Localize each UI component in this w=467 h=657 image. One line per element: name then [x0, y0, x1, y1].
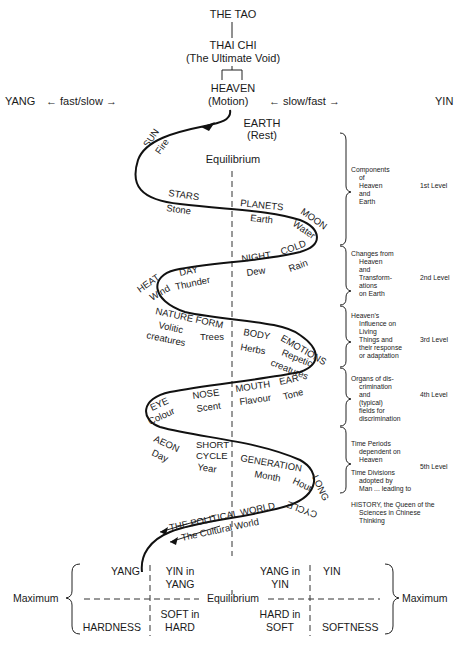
dew-label: Dew	[246, 264, 266, 278]
level-5-brace	[340, 427, 351, 493]
rain-label: Rain	[287, 257, 309, 274]
yin-cell: YIN	[323, 565, 341, 577]
yang-cell: YANG	[111, 565, 140, 577]
soft-in-hard-cell-1: SOFT in	[161, 608, 200, 620]
level-1-description: Components of Heaven and Earth 1st Level	[351, 166, 448, 205]
svg-text:Sciences in Chinese: Sciences in Chinese	[359, 509, 421, 516]
yang-in-yin-cell-1: YANG in	[260, 565, 300, 577]
stone-label: Stone	[166, 202, 192, 216]
svg-text:ations: ations	[359, 282, 378, 289]
tao-label: THE TAO	[210, 8, 257, 20]
svg-text:and: and	[359, 266, 371, 273]
svg-text:fields for: fields for	[359, 407, 385, 414]
cultural-arrow-head	[170, 537, 178, 545]
level-2-label: 2nd Level	[420, 274, 450, 281]
body-label: BODY	[243, 326, 272, 342]
yang-label: YANG	[5, 95, 35, 107]
svg-text:Time Divisions: Time Divisions	[351, 469, 396, 476]
night-label: NIGHT	[241, 249, 272, 264]
equilibrium-label: Equilibrium	[206, 153, 260, 165]
right-maximum-label: Maximum	[402, 592, 448, 604]
level-3-label: 3rd Level	[420, 336, 448, 343]
level-2-brace	[340, 246, 351, 305]
svg-text:Time Periods: Time Periods	[351, 440, 391, 447]
svg-text:of: of	[359, 174, 365, 181]
svg-text:Heaven: Heaven	[359, 182, 383, 189]
fast-slow-label: ← fast/slow →	[46, 95, 117, 107]
arrow-head-top	[201, 122, 215, 131]
svg-text:Transform-: Transform-	[359, 274, 392, 281]
cycle-long-label: CYCLE	[285, 499, 319, 520]
svg-text:Heaven's: Heaven's	[351, 312, 380, 319]
svg-text:Thinking: Thinking	[359, 517, 385, 525]
scent-label: Scent	[196, 400, 222, 414]
level-2-description: Changes from Heaven and Transform- ation…	[351, 250, 450, 297]
motion-line: YANG ← fast/slow → (Motion) ← slow/fast …	[5, 95, 453, 107]
svg-text:Heaven: Heaven	[359, 456, 383, 463]
yin-in-yang-cell-2: YANG	[166, 578, 195, 590]
earth-label: EARTH	[243, 117, 280, 129]
flavour-label: Flavour	[239, 392, 272, 407]
left-maximum-brace	[66, 564, 80, 634]
left-maximum-label: Maximum	[13, 592, 59, 604]
level-3-brace	[340, 306, 351, 367]
level-4-label: 4th Level	[420, 391, 448, 398]
right-maximum-brace	[385, 564, 399, 634]
soft-in-hard-cell-2: HARD	[165, 621, 195, 633]
thai-chi-sub-label: (The Ultimate Void)	[186, 52, 280, 64]
svg-text:Organs of dis-: Organs of dis-	[351, 375, 394, 383]
svg-text:and: and	[359, 391, 371, 398]
yang-in-yin-cell-2: YIN	[271, 578, 289, 590]
svg-text:and: and	[359, 190, 371, 197]
hard-in-soft-cell-2: SOFT	[266, 621, 295, 633]
hard-in-soft-cell-1: HARD in	[260, 608, 301, 620]
grid-equilibrium-label: Equilibrium	[207, 592, 259, 604]
level-5-description: Time Periods dependent on Heaven Time Di…	[351, 440, 448, 493]
earth-sub-label: (Rest)	[247, 129, 277, 141]
nose-label: NOSE	[192, 386, 220, 401]
svg-text:Man ... leading to: Man ... leading to	[359, 485, 411, 493]
softness-cell: SOFTNESS	[322, 621, 379, 633]
level-1-label: 1st Level	[420, 182, 448, 189]
earth-element-label: Earth	[250, 212, 274, 225]
year-label: Year	[197, 461, 218, 475]
svg-text:Components: Components	[351, 166, 390, 174]
yin-label: YIN	[435, 95, 453, 107]
level-5-label: 5th Level	[420, 463, 448, 470]
trees-label: Trees	[200, 331, 224, 342]
svg-text:(typical): (typical)	[359, 399, 383, 407]
tao-cosmology-diagram: THE TAO THAI CHI (The Ultimate Void) HEA…	[0, 0, 467, 657]
cycle-label: CYCLE	[196, 450, 228, 461]
svg-text:their response: their response	[359, 344, 402, 352]
level-4-description: Organs of dis- crimination and (typical)…	[351, 375, 448, 422]
month-label: Month	[254, 468, 282, 483]
motion-label: (Motion)	[208, 95, 248, 107]
svg-text:on Earth: on Earth	[359, 290, 385, 297]
tone-label: Tone	[282, 386, 305, 402]
level-3-description: Heaven's Influence on Living Things and …	[351, 312, 448, 360]
yin-in-yang-cell-1: YIN in	[166, 565, 195, 577]
yin-yang-grid: Maximum Maximum Equilibrium YANG YIN in …	[13, 564, 448, 636]
svg-text:adopted by: adopted by	[359, 477, 393, 485]
level-4-brace	[340, 368, 351, 426]
svg-text:discrimination: discrimination	[359, 415, 401, 422]
svg-text:Heaven: Heaven	[359, 258, 383, 265]
hardness-cell: HARDNESS	[83, 621, 141, 633]
svg-text:Things and: Things and	[359, 336, 393, 344]
herbs-label: Herbs	[240, 341, 267, 356]
thai-chi-label: THAI CHI	[209, 39, 256, 51]
slow-fast-label: ← slow/fast →	[269, 95, 340, 107]
svg-text:Living: Living	[359, 328, 377, 336]
svg-text:or adaptation: or adaptation	[359, 352, 399, 360]
svg-text:Earth: Earth	[359, 198, 375, 205]
short-label: SHORT	[196, 439, 229, 450]
svg-text:dependent on: dependent on	[359, 448, 401, 456]
svg-text:HISTORY, the Queen of the: HISTORY, the Queen of the	[351, 501, 435, 509]
svg-text:crimination: crimination	[359, 383, 392, 390]
svg-text:Changes from: Changes from	[351, 250, 394, 258]
level-1-brace	[340, 133, 351, 245]
heaven-label: HEAVEN	[211, 82, 255, 94]
history-note: HISTORY, the Queen of the Sciences in Ch…	[351, 501, 435, 525]
thai-chi-connector	[222, 66, 242, 80]
stars-label: STARS	[168, 187, 200, 202]
